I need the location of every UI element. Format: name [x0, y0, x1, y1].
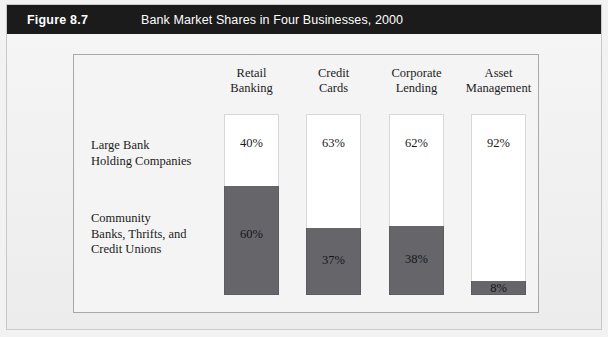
bar-label-community-3: 38%: [390, 252, 443, 267]
bar-column-4: 92%8%: [471, 114, 526, 295]
bar-segment-community-2: 37%: [306, 228, 361, 295]
column-header-4-line-2: Management: [439, 81, 559, 96]
row-label-large-bank-line-1: Large Bank: [91, 138, 191, 154]
bar-label-community-1: 60%: [225, 227, 278, 242]
figure-container: Figure 8.7 Bank Market Shares in Four Bu…: [0, 0, 608, 337]
figure-title: Bank Market Shares in Four Businesses, 2…: [141, 13, 403, 27]
bar-label-large-bank-4: 92%: [472, 136, 525, 151]
row-label-community-line-3: Credit Unions: [91, 242, 187, 258]
bar-segment-large-bank-1: 40%: [224, 114, 279, 186]
figure-title-bar: Figure 8.7 Bank Market Shares in Four Bu…: [7, 5, 601, 34]
row-label-community-line-1: Community: [91, 211, 187, 227]
bar-label-community-2: 37%: [307, 253, 360, 268]
bar-segment-community-3: 38%: [389, 226, 444, 295]
column-header-4: AssetManagement: [439, 66, 559, 96]
bar-column-1: 40%60%: [224, 114, 279, 295]
bar-label-community-4: 8%: [472, 281, 525, 296]
column-header-4-line-1: Asset: [439, 66, 559, 81]
bar-segment-community-4: 8%: [471, 281, 526, 295]
bar-segment-large-bank-4: 92%: [471, 114, 526, 281]
row-label-community: CommunityBanks, Thrifts, andCredit Union…: [91, 211, 187, 258]
bar-column-3: 62%38%: [389, 114, 444, 295]
bar-column-2: 63%37%: [306, 114, 361, 295]
bar-label-large-bank-3: 62%: [390, 136, 443, 151]
row-label-large-bank-line-2: Holding Companies: [91, 154, 191, 170]
bar-label-large-bank-2: 63%: [307, 136, 360, 151]
bar-segment-large-bank-3: 62%: [389, 114, 444, 226]
row-label-large-bank: Large BankHolding Companies: [91, 138, 191, 169]
row-label-community-line-2: Banks, Thrifts, and: [91, 227, 187, 243]
figure-number: Figure 8.7: [27, 13, 88, 27]
chart-panel: RetailBankingCreditCardsCorporateLending…: [73, 54, 539, 313]
bar-label-large-bank-1: 40%: [225, 136, 278, 151]
bar-segment-community-1: 60%: [224, 186, 279, 295]
bar-segment-large-bank-2: 63%: [306, 114, 361, 228]
